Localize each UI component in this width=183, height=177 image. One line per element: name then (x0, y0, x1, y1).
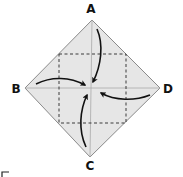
label-a: A (86, 3, 95, 15)
corner-bracket-icon (2, 172, 9, 177)
label-d: D (163, 83, 173, 95)
label-c: C (86, 160, 95, 172)
origami-diagram: A B D C (0, 0, 183, 177)
label-b: B (11, 83, 20, 95)
diagram-canvas (0, 0, 183, 177)
paper-diamond (25, 20, 160, 157)
